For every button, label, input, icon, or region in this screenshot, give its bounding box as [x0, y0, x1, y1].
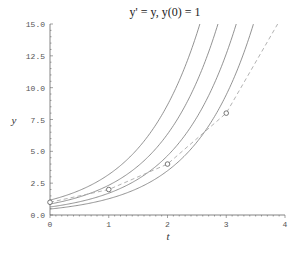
y-tick-label: 12.5	[26, 52, 45, 61]
euler-point-marker	[165, 162, 170, 167]
y-tick-label: 0.0	[31, 211, 46, 220]
solution-curve	[50, 24, 200, 200]
y-tick-label: 7.5	[31, 116, 46, 125]
chart-title: y' = y, y(0) = 1	[130, 5, 201, 19]
x-tick-label: 2	[165, 220, 170, 229]
euler-point-marker	[224, 111, 229, 116]
x-tick-label: 0	[48, 220, 53, 229]
y-axis-label: y	[11, 114, 17, 126]
x-tick-label: 4	[283, 220, 288, 229]
x-axis-label: t	[166, 230, 170, 242]
euler-line	[50, 24, 278, 202]
euler-point-marker	[106, 187, 111, 192]
y-tick-label: 15.0	[26, 20, 45, 29]
solution-curve	[50, 24, 236, 207]
x-tick-label: 3	[224, 220, 229, 229]
chart: y' = y, y(0) = 1 012340.02.55.07.510.012…	[0, 0, 299, 255]
euler-point-marker	[48, 200, 53, 205]
axes: 012340.02.55.07.510.012.515.0	[26, 20, 288, 229]
y-tick-label: 2.5	[31, 179, 46, 188]
y-tick-label: 10.0	[26, 84, 45, 93]
solution-curve	[50, 24, 218, 204]
y-tick-label: 5.0	[31, 147, 46, 156]
x-tick-label: 1	[106, 220, 111, 229]
